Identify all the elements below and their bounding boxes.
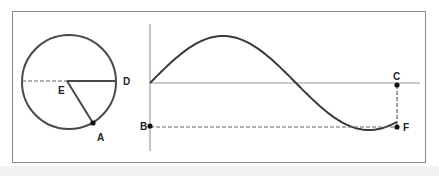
label-B: B bbox=[140, 121, 147, 132]
label-C: C bbox=[393, 71, 400, 82]
label-A: A bbox=[97, 132, 104, 143]
point-C bbox=[394, 82, 399, 87]
point-A bbox=[90, 120, 95, 125]
point-F bbox=[394, 124, 399, 129]
label-D: D bbox=[123, 76, 130, 87]
label-F: F bbox=[403, 122, 409, 133]
point-B bbox=[147, 123, 152, 128]
diagram-frame bbox=[13, 12, 426, 163]
footer-strip bbox=[0, 166, 439, 176]
label-E: E bbox=[58, 85, 65, 96]
diagram-svg: E D A B C F bbox=[0, 0, 439, 176]
diagram-canvas: E D A B C F bbox=[0, 0, 439, 176]
